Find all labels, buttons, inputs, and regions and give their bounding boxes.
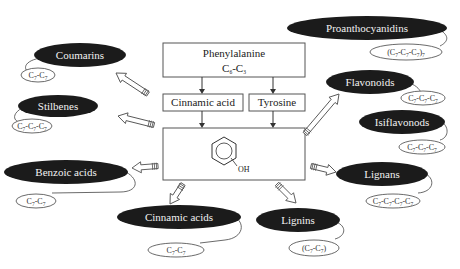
class-label: Cinnamic acids (145, 211, 213, 223)
arrowhead (270, 89, 276, 94)
formula-label: C7-C7-C7 (408, 94, 438, 104)
node-lignans: LignansC7-C7-C7-C7 (336, 162, 432, 208)
phenylalanine-label: Phenylalanine (203, 47, 265, 59)
hollow-arrow-to-lignans (310, 161, 338, 178)
node-isiflavonods: IsiflavonodsC7-C7-C7 (359, 110, 447, 154)
formula-label: C7-C7-C7 (407, 143, 437, 153)
class-label: Flavonoids (346, 76, 395, 88)
tyrosine-label: Tyrosine (258, 96, 296, 108)
class-label: Isiflavonods (375, 116, 429, 128)
class-label: Stilbenes (38, 100, 78, 112)
phenol-box (163, 128, 305, 180)
arrowhead (199, 123, 205, 128)
arrowhead (199, 89, 205, 94)
node-benzoic-acids: Benzoic acidsC7-C7 (4, 160, 135, 208)
formula-label: C7-C7-C7 (17, 122, 47, 132)
arrowhead (270, 123, 276, 128)
node-flavonoids: FlavonoidsC7-C7-C7 (326, 70, 445, 105)
hollow-arrow-to-lignins (273, 180, 300, 207)
node-lignins: Lignins(C7-C7) (256, 208, 344, 256)
hollow-arrow-to-coumarins (113, 68, 151, 98)
node-coumarins: CoumarinsC7-C7 (21, 43, 126, 82)
hydroxyl-label: OH (238, 165, 250, 174)
node-stilbenes: StilbenesC7-C7-C7 (12, 95, 98, 133)
node-cinnamic-acids: Cinnamic acidsC7-C7 (117, 205, 241, 257)
class-label: Coumarins (56, 49, 104, 61)
hollow-arrow-to-cinnamic-acids (165, 181, 187, 207)
class-label: Lignans (364, 168, 399, 180)
hollow-arrow-to-flavonoids (301, 90, 343, 137)
phenylalanine-formula: C6-C3 (222, 62, 246, 75)
class-label: Benzoic acids (35, 166, 96, 178)
class-label: Lignins (281, 214, 315, 226)
node-proanthocyanidins: Proanthocyanidins(C7-C7-C7)7 (287, 16, 447, 60)
hollow-arrow-to-benzoic-acids (132, 161, 159, 174)
formula-label: (C7-C7) (302, 244, 327, 254)
cinnamic-acid-label: Cinnamic acid (171, 96, 235, 108)
hollow-arrow-to-stilbenes (117, 111, 156, 131)
class-label: Proanthocyanidins (326, 22, 408, 34)
phenylpropanoid-diagram: Phenylalanine C6-C3 Cinnamic acid Tyrosi… (0, 0, 460, 269)
